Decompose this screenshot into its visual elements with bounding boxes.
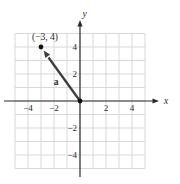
point-dot xyxy=(39,45,44,50)
point-coordinates-label: (−3, 4) xyxy=(32,32,58,43)
x-axis-arrowhead-icon xyxy=(153,99,160,104)
y-axis-label: y xyxy=(81,9,87,19)
y-tick-neg2: −2 xyxy=(67,123,77,133)
vector-a-arrowhead-icon xyxy=(44,51,51,59)
x-tick-2: 2 xyxy=(104,103,109,113)
x-tick-neg2: −2 xyxy=(49,103,59,113)
vector-figure: x y −4 −2 2 4 4 2 −2 −4 (−3, 4) a xyxy=(0,0,180,184)
coordinate-plane-svg: x y −4 −2 2 4 4 2 −2 −4 (−3, 4) a xyxy=(0,0,180,184)
x-tick-neg4: −4 xyxy=(23,103,33,113)
y-axis-arrowhead-icon xyxy=(77,20,82,27)
x-tick-4: 4 xyxy=(130,103,135,113)
x-axis-label: x xyxy=(163,96,169,106)
y-tick-neg4: −4 xyxy=(67,150,77,160)
y-tick-2: 2 xyxy=(73,69,78,79)
origin-dot xyxy=(78,99,83,104)
y-tick-4: 4 xyxy=(73,42,78,52)
vector-name-label: a xyxy=(54,77,59,87)
